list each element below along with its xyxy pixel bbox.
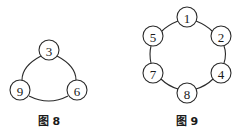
edge-3-9 <box>22 56 41 80</box>
edge-1-2 <box>196 21 212 31</box>
node-label: 6 <box>74 84 81 99</box>
node-label: 7 <box>150 67 157 82</box>
edge-6-3 <box>57 56 76 80</box>
node-label: 3 <box>46 44 53 59</box>
node-label: 5 <box>150 30 157 45</box>
node-9: 9 <box>10 80 30 100</box>
figure-9: 1 2 4 8 7 5 图 9 <box>143 7 231 128</box>
node-1: 1 <box>177 7 197 27</box>
edge-8-7 <box>161 79 178 89</box>
edge-9-6 <box>29 96 68 101</box>
node-2: 2 <box>211 26 231 46</box>
node-label: 2 <box>218 30 225 45</box>
node-6: 6 <box>67 80 87 100</box>
node-8: 8 <box>177 83 197 103</box>
figure-8: 3 9 6 图 8 <box>10 40 87 128</box>
node-label: 1 <box>184 11 191 26</box>
node-label: 8 <box>184 87 191 102</box>
node-3: 3 <box>39 40 59 60</box>
node-label: 9 <box>17 84 24 99</box>
edge-5-1 <box>162 21 178 31</box>
diagram-canvas: 3 9 6 图 8 1 2 4 <box>0 0 241 134</box>
edge-2-4 <box>224 46 226 63</box>
node-5: 5 <box>143 26 163 46</box>
edge-7-5 <box>150 46 151 63</box>
figure-8-caption: 图 8 <box>38 115 60 128</box>
node-4: 4 <box>211 63 231 83</box>
node-7: 7 <box>143 63 163 83</box>
figure-9-caption: 图 9 <box>176 115 198 128</box>
edge-4-8 <box>196 79 213 89</box>
node-label: 4 <box>218 67 225 82</box>
